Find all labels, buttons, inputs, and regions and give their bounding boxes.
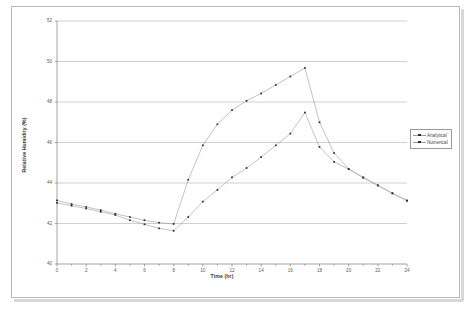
chart-legend: Analytical Numerical [410,129,452,149]
chart-canvas [12,7,461,299]
x-tick-label: 6 [135,268,155,273]
y-tick-label: 48 [32,99,52,104]
chart-figure: 40424446485052 024681012141618202224 Rel… [12,7,461,299]
legend-key-icon [413,133,426,139]
legend-item-numerical: Numerical [413,139,448,146]
x-tick-label: 16 [280,268,300,273]
page-shadow-bottom [14,299,463,302]
document-page: 40424446485052 024681012141618202224 Rel… [11,6,460,298]
x-tick-label: 18 [310,268,330,273]
x-tick-label: 20 [339,268,359,273]
legend-label-numerical: Numerical [426,140,448,145]
x-tick-label: 22 [368,268,388,273]
page-shadow-right [461,9,464,301]
screenshot-root: 40424446485052 024681012141618202224 Rel… [0,0,471,310]
x-tick-label: 2 [76,268,96,273]
legend-item-analytical: Analytical [413,132,448,139]
y-tick-label: 44 [32,180,52,185]
y-tick-label: 46 [32,140,52,145]
y-tick-label: 50 [32,59,52,64]
x-tick-label: 4 [105,268,125,273]
legend-key-icon [413,140,426,146]
grid-lines [57,21,407,224]
series-lines [57,68,407,231]
series-markers [56,67,408,232]
x-tick-label: 0 [47,268,67,273]
y-tick-label: 52 [32,18,52,23]
y-axis-title: Relative Humidity (%) [21,105,27,185]
legend-label-analytical: Analytical [426,133,447,138]
x-axis-title: Time (hr) [162,273,282,279]
axis-ticks [55,21,407,267]
y-tick-label: 42 [32,221,52,226]
x-tick-label: 24 [397,268,417,273]
y-tick-label: 40 [32,261,52,266]
